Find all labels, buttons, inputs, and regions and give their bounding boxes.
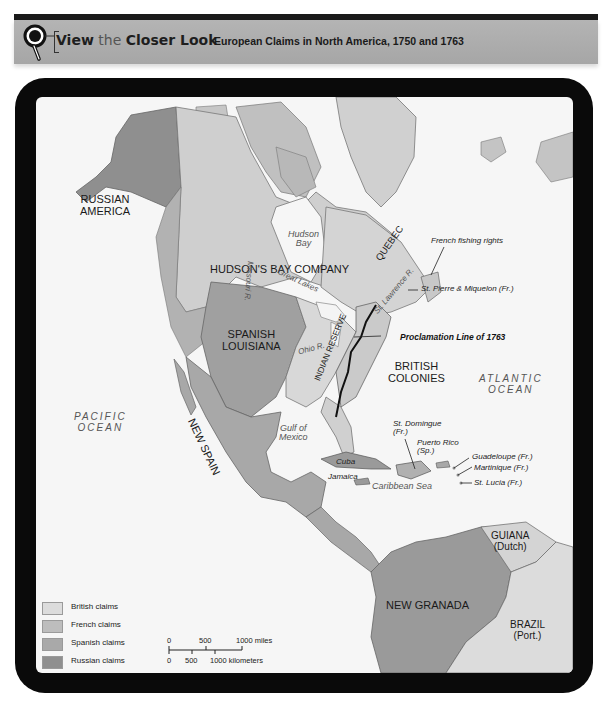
- label-cuba: Cuba: [336, 458, 355, 466]
- map-title: European Claims in North America, 1750 a…: [214, 35, 464, 47]
- label-british-colonies: BRITISHCOLONIES: [388, 361, 445, 384]
- the-word: the: [98, 32, 121, 48]
- view-word: View: [56, 32, 94, 48]
- label-brazil: BRAZIL(Port.): [510, 620, 545, 641]
- header-bar: View the Closer Look European Claims in …: [14, 20, 598, 64]
- callout-st-pierre-miquelon: St. Pierre & Miquelon (Fr.): [421, 285, 514, 293]
- callout-martinique: Martinique (Fr.): [474, 464, 528, 472]
- legend-label-russian: Russian claims: [71, 656, 125, 665]
- british-claims-swatch: [42, 602, 63, 615]
- callout-guadeloupe: Guadeloupe (Fr.): [472, 453, 533, 461]
- label-new-granada: NEW GRANADA: [386, 600, 469, 612]
- legend-item-british: British claims: [42, 602, 202, 614]
- legend-label-spanish: Spanish claims: [71, 638, 125, 647]
- scale-line: [165, 645, 285, 655]
- label-guiana: GUIANA(Dutch): [491, 531, 529, 552]
- label-russian-america: RUSSIANAMERICA: [80, 194, 130, 217]
- scale-km-500: 500: [185, 656, 198, 665]
- scale-miles-0: 0: [167, 636, 171, 645]
- magnifier-icon: [22, 23, 54, 63]
- label-spanish-louisiana: SPANISHLOUISIANA: [222, 329, 281, 352]
- legend-label-british: British claims: [71, 602, 118, 611]
- callout-proclamation-line: Proclamation Line of 1763: [400, 333, 505, 342]
- scale-miles-500: 500: [199, 636, 212, 645]
- legend-item-french: French claims: [42, 620, 202, 632]
- label-gulf-of-mexico: Gulf ofMexico: [279, 424, 308, 443]
- view-closer-look-link[interactable]: View the Closer Look: [56, 32, 217, 48]
- closer-look-word: Closer Look: [126, 32, 218, 48]
- label-hudson-bay: HudsonBay: [288, 230, 319, 249]
- legend-label-french: French claims: [71, 620, 121, 629]
- russian-claims-swatch: [42, 656, 63, 669]
- callout-french-fishing-rights: French fishing rights: [431, 237, 503, 245]
- scale-miles-1000: 1000 miles: [236, 636, 272, 645]
- label-caribbean-sea: Caribbean Sea: [372, 482, 432, 491]
- label-jamaica: Jamaica: [328, 473, 358, 481]
- french-claims-swatch: [42, 620, 63, 633]
- scale-km-1000: 1000 kilometers: [210, 656, 263, 665]
- label-pacific-ocean: PACIFICOCEAN: [74, 412, 127, 433]
- scale-km-0: 0: [167, 656, 171, 665]
- map-canvas: RUSSIANAMERICA HUDSON'S BAY COMPANY Huds…: [36, 97, 573, 673]
- spanish-claims-swatch: [42, 638, 63, 651]
- scale-bar: 0 500 1000 miles 0 500 1000 kilometers: [165, 636, 285, 666]
- label-atlantic-ocean: ATLANTICOCEAN: [479, 374, 543, 395]
- callout-st-lucia: St. Lucia (Fr.): [474, 479, 522, 487]
- callout-puerto-rico: Puerto Rico(Sp.): [417, 439, 459, 456]
- callout-st-domingue: St. Domingue(Fr.): [393, 420, 441, 437]
